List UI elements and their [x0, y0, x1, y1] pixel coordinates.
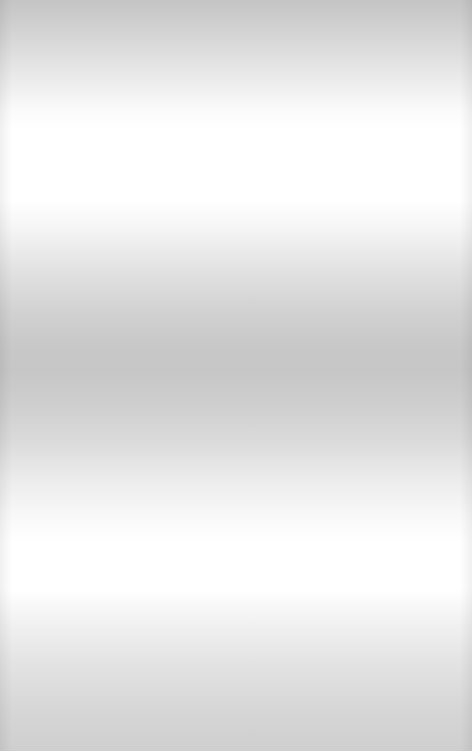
gradient-background — [0, 0, 472, 751]
edge-vignette — [0, 0, 472, 751]
